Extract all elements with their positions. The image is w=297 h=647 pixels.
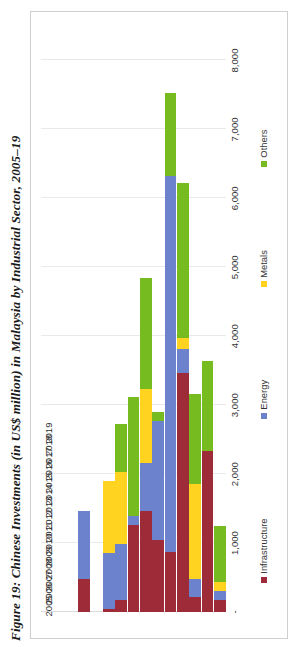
legend-label: Others xyxy=(259,130,269,158)
bar-group-2013[interactable] xyxy=(140,26,152,612)
legend-swatch-icon xyxy=(261,413,267,419)
legend-label: Metals xyxy=(259,250,269,278)
chart-legend: InfrastructureEnergyMetalsOthers xyxy=(259,26,273,612)
bar-group-2008[interactable] xyxy=(78,26,90,612)
bar-segment-2012-infrastructure[interactable] xyxy=(128,525,140,612)
bar-group-2010[interactable] xyxy=(103,26,115,612)
bar-group-2017[interactable] xyxy=(189,26,201,612)
bar-segment-2019-infrastructure[interactable] xyxy=(214,600,226,612)
bar-segment-2017-others[interactable] xyxy=(189,394,201,484)
bar-segment-2008-infrastructure[interactable] xyxy=(78,579,90,612)
value-tick-3: 3,000 xyxy=(229,393,240,417)
figure-page: Figure 19: Chinese Investments (in US$ m… xyxy=(0,0,297,647)
figure-title: Figure 19: Chinese Investments (in US$ m… xyxy=(8,5,24,641)
bar-segment-2011-others[interactable] xyxy=(115,425,127,473)
chart-frame: -1,0002,0003,0004,0005,0006,0007,0008,00… xyxy=(30,11,288,639)
bar-group-2016[interactable] xyxy=(177,26,189,612)
bar-group-2007[interactable] xyxy=(66,26,78,612)
bar-group-2011[interactable] xyxy=(115,26,127,612)
bar-group-2012[interactable] xyxy=(128,26,140,612)
value-tick-4: 4,000 xyxy=(229,324,240,348)
legend-item-infrastructure[interactable]: Infrastructure xyxy=(259,518,269,582)
bar-segment-2013-infrastructure[interactable] xyxy=(140,511,152,612)
bar-segment-2019-energy[interactable] xyxy=(214,591,226,600)
bar-group-2015[interactable] xyxy=(165,26,177,612)
bar-segment-2015-infrastructure[interactable] xyxy=(165,552,177,612)
bar-segment-2010-energy[interactable] xyxy=(103,553,115,610)
value-tick-8: 8,000 xyxy=(229,48,240,72)
bar-segment-2015-energy[interactable] xyxy=(165,176,177,552)
bar-group-2014[interactable] xyxy=(152,26,164,612)
value-tick-5: 5,000 xyxy=(229,255,240,279)
legend-label: Energy xyxy=(259,380,269,410)
bar-group-2009[interactable] xyxy=(91,26,103,612)
bar-segment-2011-metals[interactable] xyxy=(115,472,127,544)
bar-segment-2017-energy[interactable] xyxy=(189,579,201,597)
legend-item-energy[interactable]: Energy xyxy=(259,380,269,419)
bar-segment-2015-others[interactable] xyxy=(165,93,177,176)
value-axis: -1,0002,0003,0004,0005,0006,0007,0008,00… xyxy=(229,26,245,612)
legend-label: Infrastructure xyxy=(259,518,269,573)
legend-item-metals[interactable]: Metals xyxy=(259,250,269,287)
category-axis: 2005200620072008200920102011201220132014… xyxy=(43,26,57,612)
bar-segment-2019-others[interactable] xyxy=(214,526,226,583)
legend-swatch-icon xyxy=(261,161,267,167)
bar-segment-2012-others[interactable] xyxy=(128,397,140,516)
value-tick-7: 7,000 xyxy=(229,117,240,141)
bar-segment-2011-infrastructure[interactable] xyxy=(115,600,127,612)
bar-segment-2016-energy[interactable] xyxy=(177,349,189,373)
bar-segment-2016-others[interactable] xyxy=(177,183,189,338)
bar-segment-2018-others[interactable] xyxy=(202,361,214,451)
bar-segment-2010-infrastructure[interactable] xyxy=(103,609,115,612)
bar-segment-2008-energy[interactable] xyxy=(78,511,90,579)
value-tick-1: 1,000 xyxy=(229,531,240,555)
bar-segment-2010-metals[interactable] xyxy=(103,481,115,553)
bar-segment-2013-energy[interactable] xyxy=(140,463,152,511)
value-tick-0: - xyxy=(229,610,240,613)
bar-group-2018[interactable] xyxy=(202,26,214,612)
legend-swatch-icon xyxy=(261,281,267,287)
bar-segment-2014-others[interactable] xyxy=(152,412,164,421)
bar-segment-2011-energy[interactable] xyxy=(115,544,127,601)
bar-segment-2014-energy[interactable] xyxy=(152,421,164,540)
legend-item-others[interactable]: Others xyxy=(259,130,269,167)
bar-segment-2013-metals[interactable] xyxy=(140,389,152,463)
bar-segment-2013-others[interactable] xyxy=(140,278,152,388)
legend-swatch-icon xyxy=(261,577,267,583)
bar-segment-2016-infrastructure[interactable] xyxy=(177,373,189,612)
bar-segment-2012-energy[interactable] xyxy=(128,516,140,525)
bar-segment-2016-metals[interactable] xyxy=(177,338,189,350)
rotated-figure-canvas: Figure 19: Chinese Investments (in US$ m… xyxy=(0,0,297,647)
value-tick-6: 6,000 xyxy=(229,186,240,210)
bar-group-2019[interactable] xyxy=(214,26,226,612)
bar-segment-2017-infrastructure[interactable] xyxy=(189,597,201,612)
bar-segment-2014-infrastructure[interactable] xyxy=(152,540,164,612)
bar-segment-2018-infrastructure[interactable] xyxy=(202,451,214,612)
category-tick-2019: 2019 xyxy=(43,423,54,444)
bar-segment-2019-metals[interactable] xyxy=(214,582,226,591)
value-tick-2: 2,000 xyxy=(229,462,240,486)
bar-segment-2017-metals[interactable] xyxy=(189,484,201,579)
plot-area xyxy=(41,26,226,612)
